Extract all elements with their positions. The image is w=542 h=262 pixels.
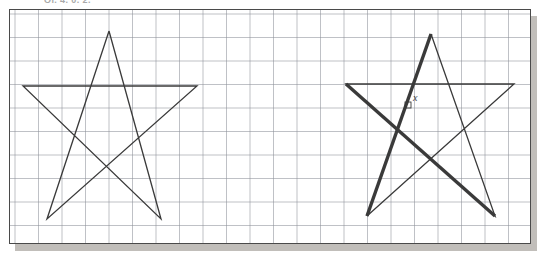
page-caption: Ol. 4. 0. 2. — [44, 0, 91, 5]
graph-paper-grid — [10, 10, 531, 244]
figure-panel: x — [9, 9, 531, 244]
figure-page: Ol. 4. 0. 2. x — [0, 0, 542, 262]
angle-label-x: x — [413, 93, 417, 103]
